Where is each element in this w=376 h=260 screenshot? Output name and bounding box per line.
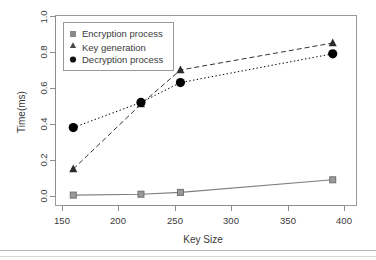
footer-divider-secondary [0, 256, 376, 257]
footer-divider [0, 250, 376, 251]
x-tick-label-5: 400 [336, 215, 352, 226]
series-encryption-process [70, 177, 335, 198]
y-tick-label-5: 1.0 [38, 10, 49, 23]
legend-item-key-generation[interactable]: Key generation [70, 42, 146, 53]
y-axis-title: Time(ms) [16, 91, 27, 133]
y-tick-label-1: 0.2 [38, 153, 49, 166]
x-tick-label-3: 300 [223, 215, 239, 226]
legend-label-0: Encryption process [82, 28, 163, 39]
circle-marker-icon [136, 98, 145, 107]
x-tick-label-1: 200 [110, 215, 126, 226]
legend-label-1: Key generation [82, 42, 146, 53]
square-marker-icon [330, 177, 336, 183]
line-chart-canvas: 0.0 0.2 0.4 0.6 0.8 1.0 Time(ms) 150 200… [0, 0, 376, 260]
y-tick-label-2: 0.4 [38, 117, 49, 130]
circle-marker-icon [176, 78, 185, 87]
x-tick-label-2: 250 [167, 215, 183, 226]
chart-figure: 0.0 0.2 0.4 0.6 0.8 1.0 Time(ms) 150 200… [0, 0, 376, 260]
square-marker-icon [138, 191, 144, 197]
x-axis: 150 200 250 300 350 400 Key Size [54, 206, 352, 246]
legend-label-2: Decryption process [82, 54, 164, 65]
series-line [73, 180, 332, 195]
circle-marker-icon [69, 123, 78, 132]
circle-marker-icon [328, 49, 337, 58]
square-marker-icon [71, 32, 76, 37]
circle-marker-icon [70, 56, 76, 62]
y-tick-label-0: 0.0 [38, 189, 49, 202]
legend-item-encryption-process[interactable]: Encryption process [71, 28, 164, 39]
legend-item-decryption-process[interactable]: Decryption process [70, 54, 164, 65]
chart-legend: Encryption process Key generation Decryp… [64, 23, 174, 71]
triangle-marker-icon [329, 39, 337, 47]
y-tick-label-4: 0.8 [38, 45, 49, 58]
x-axis-title: Key Size [183, 234, 223, 245]
square-marker-icon [177, 189, 183, 195]
x-tick-label-4: 350 [280, 215, 296, 226]
y-axis: 0.0 0.2 0.4 0.6 0.8 1.0 Time(ms) [16, 10, 56, 202]
x-tick-label-0: 150 [54, 215, 70, 226]
y-tick-label-3: 0.6 [38, 81, 49, 94]
square-marker-icon [70, 192, 76, 198]
